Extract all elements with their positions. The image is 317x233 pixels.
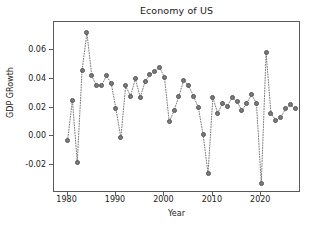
data-point	[162, 75, 167, 80]
data-point	[181, 78, 186, 83]
x-tick-mark	[212, 192, 213, 196]
x-tick-mark	[67, 192, 68, 196]
y-tick-mark	[49, 107, 53, 108]
x-tick-mark	[115, 192, 116, 196]
data-point	[254, 101, 259, 106]
x-tick-label: 1980	[56, 195, 76, 204]
data-point	[172, 108, 177, 113]
plot-frame	[53, 21, 300, 192]
series-line	[54, 22, 299, 191]
x-tick-label: 2010	[202, 195, 222, 204]
data-point	[80, 68, 85, 73]
y-tick-mark	[49, 164, 53, 165]
data-point	[128, 94, 133, 99]
chart-figure: Economy of US GDP GRowth -0.020.000.020.…	[0, 0, 317, 233]
data-point	[225, 104, 230, 109]
y-tick-mark	[49, 135, 53, 136]
y-tick-label: 0.04	[28, 73, 46, 82]
y-axis-tick-labels: -0.020.000.020.040.06	[0, 21, 46, 192]
plot-area	[54, 22, 299, 191]
y-tick-label: -0.02	[25, 159, 46, 168]
data-point	[196, 105, 201, 110]
y-tick-mark	[49, 49, 53, 50]
data-point	[244, 101, 249, 106]
x-axis-tick-labels: 19801990200020102020	[53, 195, 300, 209]
y-tick-label: 0.06	[28, 45, 46, 54]
y-tick-label: 0.02	[28, 102, 46, 111]
x-tick-label: 2000	[153, 195, 173, 204]
x-tick-mark	[260, 192, 261, 196]
data-point	[201, 132, 206, 137]
chart-title: Economy of US	[53, 5, 300, 16]
x-tick-label: 1990	[105, 195, 125, 204]
data-point	[230, 95, 235, 100]
data-point	[75, 160, 80, 165]
data-point	[235, 99, 240, 104]
x-axis-label: Year	[53, 209, 300, 218]
data-point	[288, 102, 293, 107]
y-tick-mark	[49, 78, 53, 79]
data-point	[259, 181, 264, 186]
data-point	[109, 81, 114, 86]
x-tick-mark	[163, 192, 164, 196]
data-point	[215, 111, 220, 116]
data-point	[191, 94, 196, 99]
data-point	[70, 98, 75, 103]
data-point	[206, 171, 211, 176]
data-point	[143, 79, 148, 84]
x-tick-label: 2020	[250, 195, 270, 204]
data-point	[138, 95, 143, 100]
data-point	[157, 65, 162, 70]
y-tick-label: 0.00	[28, 131, 46, 140]
